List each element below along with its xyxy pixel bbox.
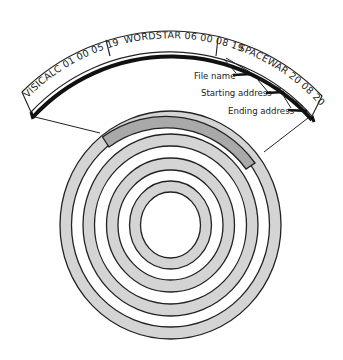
directory-band: VISICALC 01 00 05 19 WORDSTAR 06 00 08 1… (0, 0, 330, 122)
disk (60, 111, 281, 339)
track-4 (130, 181, 212, 269)
callout-label-ending-address: Ending address (228, 106, 295, 116)
leader-line-right (264, 118, 308, 152)
leader-line-left (31, 116, 100, 133)
callout-label-file-name: File name (194, 71, 235, 81)
callout-label-starting-address: Starting address (201, 88, 272, 98)
disk-directory-diagram: VISICALC 01 00 05 19 WORDSTAR 06 00 08 1… (0, 0, 343, 360)
